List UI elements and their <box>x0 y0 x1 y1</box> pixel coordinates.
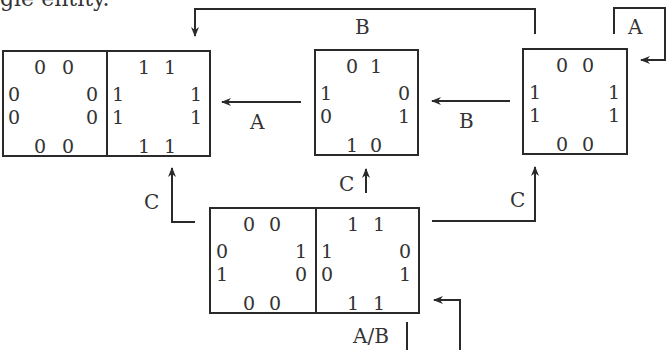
digit: 0 <box>321 265 333 284</box>
digit: 1 <box>138 58 150 77</box>
kmap-cell: 1 1 1 1 1 1 1 1 <box>106 52 209 155</box>
digit: 1 <box>608 106 620 125</box>
digit: 1 <box>112 85 124 104</box>
digit: 0 <box>8 108 20 127</box>
digit: 0 <box>34 137 46 156</box>
digit: 0 <box>62 58 74 77</box>
digit: 1 <box>190 85 202 104</box>
kmap-box-4: 0 0 0 1 1 0 0 0 1 1 1 0 0 1 1 1 <box>209 207 420 314</box>
digit: 0 <box>320 107 332 126</box>
label-c-left: C <box>144 192 159 212</box>
digit: 1 <box>529 83 541 102</box>
digit: 1 <box>138 137 150 156</box>
digit: 1 <box>373 215 385 234</box>
digit: 1 <box>112 108 124 127</box>
label-arrow-a: A <box>250 112 264 132</box>
digit: 0 <box>556 56 568 75</box>
kmap-box-1: 0 0 0 0 0 0 0 0 1 1 1 1 1 1 1 1 <box>2 50 211 157</box>
label-c-mid: C <box>339 174 354 194</box>
digit: 0 <box>582 56 594 75</box>
wire-c-left <box>172 168 195 222</box>
digit: 0 <box>269 294 281 313</box>
digit: 0 <box>8 85 20 104</box>
digit: 1 <box>320 84 332 103</box>
digit: 1 <box>347 215 359 234</box>
digit: 0 <box>86 108 98 127</box>
kmap-box-2: 0 1 1 0 0 1 1 0 <box>314 49 419 156</box>
label-self-a: A <box>628 17 642 37</box>
label-c-right: C <box>510 190 525 210</box>
digit: 1 <box>321 242 333 261</box>
digit: 0 <box>243 215 255 234</box>
digit: 0 <box>346 57 358 76</box>
kmap-cell: 0 1 1 0 0 1 1 0 <box>316 51 417 154</box>
digit: 0 <box>399 242 411 261</box>
digit: 1 <box>373 294 385 313</box>
digit: 1 <box>295 242 307 261</box>
digit: 1 <box>346 136 358 155</box>
label-ab: A/B <box>353 326 389 346</box>
digit: 1 <box>370 57 382 76</box>
kmap-box-3: 0 0 1 1 1 1 0 0 <box>522 48 628 155</box>
digit: 1 <box>164 58 176 77</box>
digit: 0 <box>556 135 568 154</box>
digit: 1 <box>216 265 228 284</box>
digit: 0 <box>86 85 98 104</box>
kmap-cell: 0 0 0 1 1 0 0 0 <box>211 209 315 312</box>
digit: 0 <box>243 294 255 313</box>
digit: 0 <box>269 215 281 234</box>
wire-ab-input <box>434 300 460 350</box>
digit: 0 <box>398 84 410 103</box>
digit: 1 <box>347 294 359 313</box>
digit: 1 <box>164 137 176 156</box>
kmap-cell: 1 1 1 0 0 1 1 1 <box>315 209 418 312</box>
label-top-b: B <box>355 17 370 37</box>
digit: 1 <box>608 83 620 102</box>
digit: 0 <box>295 265 307 284</box>
label-arrow-b: B <box>459 111 474 131</box>
kmap-cell: 0 0 1 1 1 1 0 0 <box>524 50 626 153</box>
digit: 0 <box>370 136 382 155</box>
digit: 0 <box>216 242 228 261</box>
digit: 1 <box>398 107 410 126</box>
digit: 1 <box>190 108 202 127</box>
digit: 0 <box>582 135 594 154</box>
digit: 1 <box>399 265 411 284</box>
digit: 0 <box>62 137 74 156</box>
digit: 0 <box>34 58 46 77</box>
kmap-cell: 0 0 0 0 0 0 0 0 <box>4 52 106 155</box>
digit: 1 <box>529 106 541 125</box>
